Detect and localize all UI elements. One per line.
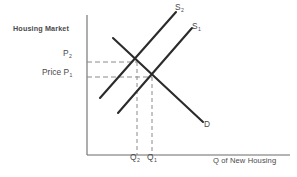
quantity-low-axis-label: Q2: [130, 153, 139, 161]
price-initial-axis-label: Price P1: [42, 68, 72, 76]
quantity-initial-subscript: 1: [154, 157, 157, 163]
price-high-subscript: 2: [69, 53, 72, 59]
quantity-initial-axis-label: Q1: [147, 153, 156, 161]
supply-initial-curve-label: S1: [192, 22, 200, 30]
supply-shifted-symbol: S: [175, 2, 181, 12]
x-axis-label: Q of New Housing: [213, 157, 276, 165]
chart-title: Housing Market: [13, 25, 69, 32]
housing-market-supply-demand-figure: Housing Market Q of New Housing S2 S1 D …: [0, 0, 297, 177]
quantity-low-symbol: Q: [130, 152, 137, 162]
price-high-symbol: P: [63, 48, 69, 58]
demand-curve-label: D: [204, 120, 210, 128]
price-initial-subscript: 1: [70, 72, 73, 78]
supply-shifted-subscript: 2: [181, 7, 184, 13]
supply-shifted-curve-label: S2: [175, 3, 183, 11]
price-axis-caption: Price: [42, 67, 63, 77]
quantity-initial-symbol: Q: [147, 152, 154, 162]
supply-initial-symbol: S: [192, 21, 198, 31]
supply-initial-subscript: 1: [198, 26, 201, 32]
price-initial-symbol: P: [63, 67, 69, 77]
price-high-axis-label: P2: [63, 49, 71, 57]
quantity-low-subscript: 2: [137, 157, 140, 163]
demand-curve: [113, 38, 203, 122]
